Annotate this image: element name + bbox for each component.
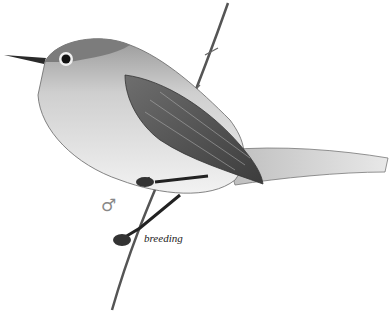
beak: [4, 55, 46, 64]
male-symbol: ♂: [101, 195, 116, 215]
bird-illustration: [0, 0, 392, 314]
caption-label: breeding: [144, 232, 183, 244]
